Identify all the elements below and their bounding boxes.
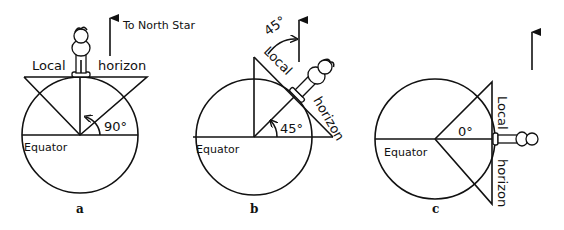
observer-figure-icon bbox=[493, 132, 538, 146]
angle-label: 45° bbox=[280, 121, 303, 136]
panel-b: 45° Equator Local horizon 45° b bbox=[193, 13, 347, 216]
north-star-label: To North Star bbox=[122, 19, 195, 32]
panel-a: 90° Equator Local horizon To North Star … bbox=[22, 18, 195, 216]
horizon-triangle bbox=[435, 82, 492, 204]
local-label: Local bbox=[261, 44, 295, 78]
horizon-triangle bbox=[24, 77, 147, 135]
horizon-label: horizon bbox=[310, 94, 347, 143]
angle-label: 0° bbox=[458, 124, 473, 139]
local-label: Local bbox=[32, 58, 66, 73]
observer-figure-icon bbox=[289, 54, 338, 103]
panel-c: 0° Equator Local horizon c bbox=[375, 32, 538, 216]
horizon-label: horizon bbox=[98, 58, 146, 73]
equator-label: Equator bbox=[24, 141, 68, 154]
observer-figure-icon bbox=[72, 27, 90, 77]
latitude-polaris-diagram: 90° Equator Local horizon To North Star … bbox=[0, 0, 564, 230]
local-label: Local bbox=[495, 96, 510, 130]
sky-angle-label: 45° bbox=[261, 13, 288, 39]
caption-b: b bbox=[250, 202, 258, 216]
angle-label: 90° bbox=[104, 119, 127, 134]
equator-label: Equator bbox=[196, 143, 240, 156]
horizon-label: horizon bbox=[495, 159, 510, 207]
caption-c: c bbox=[432, 202, 439, 216]
angle-arc bbox=[271, 121, 277, 137]
equator-label: Equator bbox=[384, 146, 428, 159]
caption-a: a bbox=[76, 202, 84, 216]
